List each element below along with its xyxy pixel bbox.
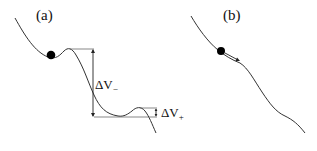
diagram-canvas: (a) ΔV− ΔV+ (b) (0, 0, 317, 151)
panel-b-ball (217, 47, 225, 55)
arrow-head-down-icon (91, 113, 95, 117)
panel-a-label: (a) (36, 7, 53, 24)
panel-b: (b) (191, 7, 305, 133)
panel-a-delta-v-minus-label: ΔV− (95, 77, 118, 94)
panel-a-delta-v-plus-label: ΔV+ (161, 105, 184, 122)
arrow-head-up-icon (155, 109, 158, 112)
panel-a-ball (47, 51, 56, 60)
panel-b-potential-curve (191, 16, 305, 133)
arrow-head-up-icon (91, 49, 95, 53)
arrow-head-down-icon (155, 114, 158, 117)
panel-a-potential-curve (15, 18, 156, 133)
panel-b-label: (b) (223, 7, 241, 24)
panel-a: (a) ΔV− ΔV+ (15, 7, 184, 133)
